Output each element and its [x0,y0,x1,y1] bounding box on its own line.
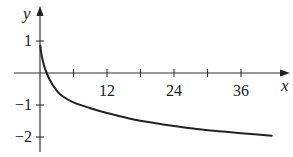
x-tick-label: 36 [233,82,249,99]
y-tick-label: −2 [15,128,32,145]
y-tick-labels: 1−1−2 [15,32,32,145]
x-tick-label: 12 [99,82,115,99]
y-tick-label: 1 [24,32,32,49]
y-tick-label: −1 [15,96,32,113]
y-axis-arrow-icon [37,6,44,16]
x-axis-label: x [280,76,289,95]
x-tick-labels: 122436 [99,82,249,99]
y-axis-label: y [21,4,31,23]
x-tick-label: 24 [166,82,182,99]
chart: 122436 1−1−2 x y [0,0,293,157]
